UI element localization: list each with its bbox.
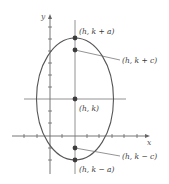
bottom-vertex-point (73, 158, 78, 163)
top-vertex-point (73, 36, 78, 41)
center-point (73, 97, 78, 102)
label-top-focus: (h, k + c) (122, 56, 157, 65)
top-focus-point (73, 48, 78, 53)
label-center: (h, k) (79, 104, 99, 113)
ellipse-diagram: x y (0, 0, 169, 184)
y-axis: y (40, 12, 52, 174)
label-top-vertex: (h, k + a) (79, 27, 115, 36)
label-bottom-focus: (h, k − c) (122, 152, 157, 161)
leader-top-focus (75, 50, 120, 60)
x-axis-label: x (147, 138, 152, 147)
x-axis: x (12, 134, 152, 147)
y-axis-label: y (40, 12, 46, 21)
label-bottom-vertex: (h, k − a) (79, 165, 115, 174)
bottom-focus-point (73, 146, 78, 151)
